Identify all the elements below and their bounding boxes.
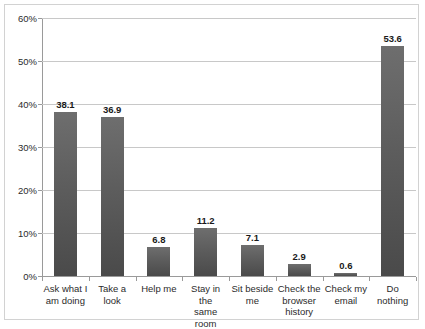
- gridline-10%: [42, 233, 416, 234]
- bar-value-label: 38.1: [56, 99, 75, 110]
- x-axis-category-label: Do nothing: [370, 283, 415, 306]
- x-tick-mark: [229, 277, 230, 281]
- x-axis-label-line: Check my: [324, 283, 369, 295]
- x-axis-label-line: Help me: [137, 283, 182, 295]
- x-tick-mark: [369, 277, 370, 281]
- x-tick-mark: [42, 277, 43, 281]
- bar-value-label: 36.9: [103, 104, 122, 115]
- x-axis-label-line: am doing: [43, 295, 88, 307]
- x-axis-tick-marks: [42, 277, 417, 282]
- y-axis-label-30%: 30%: [5, 142, 37, 153]
- y-axis-label-20%: 20%: [5, 185, 37, 196]
- x-tick-mark: [136, 277, 137, 281]
- gridline-40%: [42, 104, 416, 105]
- x-tick-mark: [89, 277, 90, 281]
- x-axis-category-label: Check thebrowserhistory: [277, 283, 322, 318]
- x-axis-category-label: Take a look: [90, 283, 135, 306]
- bar-value-label: 6.8: [152, 234, 165, 245]
- x-axis-label-line: browser: [277, 295, 322, 307]
- gridline-60%: [42, 18, 416, 19]
- x-axis-label-line: email: [324, 295, 369, 307]
- bar: [101, 117, 124, 276]
- x-tick-mark: [182, 277, 183, 281]
- x-axis-label-line: Check the: [277, 283, 322, 295]
- x-axis-category-label: Stay in thesame room: [183, 283, 228, 329]
- x-axis-label-line: same room: [183, 306, 228, 329]
- x-axis-label-line: Stay in the: [183, 283, 228, 306]
- y-axis-label-60%: 60%: [5, 13, 37, 24]
- bar: [194, 228, 217, 276]
- gridline-30%: [42, 147, 416, 148]
- x-axis-category-label: Sit besideme: [230, 283, 275, 306]
- x-tick-mark: [323, 277, 324, 281]
- bar: [381, 46, 404, 276]
- x-axis-label-line: Ask what I: [43, 283, 88, 295]
- bar-value-label: 2.9: [293, 251, 306, 262]
- x-axis-label-line: me: [230, 295, 275, 307]
- x-tick-mark: [416, 277, 417, 281]
- bar: [334, 273, 357, 276]
- x-axis-category-label: Check myemail: [324, 283, 369, 306]
- bar: [54, 112, 77, 276]
- y-axis-label-40%: 40%: [5, 99, 37, 110]
- chart-container: 0%10%20%30%40%50%60% 38.136.96.811.27.12…: [4, 4, 419, 320]
- x-axis-label-line: Take a look: [90, 283, 135, 306]
- plot-area: 38.136.96.811.27.12.90.653.6: [42, 18, 416, 276]
- bar-value-label: 7.1: [246, 232, 259, 243]
- bar: [147, 247, 170, 276]
- x-axis-label-line: Do nothing: [370, 283, 415, 306]
- x-axis-category-label: Ask what Iam doing: [43, 283, 88, 306]
- x-axis-label-line: history: [277, 306, 322, 318]
- y-axis-label-0%: 0%: [5, 271, 37, 282]
- gridline-50%: [42, 61, 416, 62]
- bar-value-label: 0.6: [339, 260, 352, 271]
- bar: [241, 245, 264, 276]
- y-axis-label-10%: 10%: [5, 228, 37, 239]
- x-axis-category-labels: Ask what Iam doingTake a lookHelp meStay…: [42, 283, 416, 321]
- gridline-20%: [42, 190, 416, 191]
- bar: [288, 264, 311, 276]
- x-tick-mark: [276, 277, 277, 281]
- y-axis-label-50%: 50%: [5, 56, 37, 67]
- x-axis-category-label: Help me: [137, 283, 182, 295]
- x-axis-label-line: Sit beside: [230, 283, 275, 295]
- y-axis-tick-labels: 0%10%20%30%40%50%60%: [5, 18, 37, 276]
- bar-value-label: 11.2: [197, 215, 215, 226]
- bar-value-label: 53.6: [383, 33, 402, 44]
